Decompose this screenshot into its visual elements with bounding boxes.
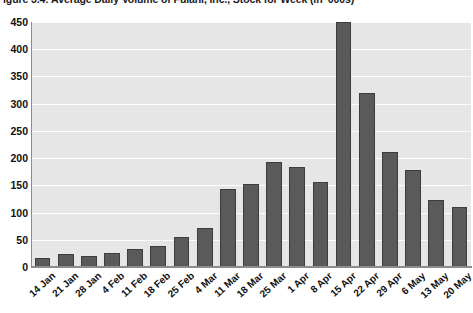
y-axis-tick-label: 350 — [10, 70, 28, 82]
bar — [336, 22, 352, 267]
chart-title: igure 3.4: Average Daily Volume of Fulan… — [3, 0, 471, 7]
y-axis-tick-label: 0 — [22, 261, 28, 273]
bar — [359, 93, 375, 267]
bar — [104, 253, 120, 267]
bar — [405, 170, 421, 267]
bar — [313, 182, 329, 267]
bar — [452, 207, 468, 267]
x-axis-tick-label: 15 Apr — [328, 270, 358, 299]
y-axis-tick-label: 50 — [16, 234, 28, 246]
y-axis-tick-label: 300 — [10, 98, 28, 110]
bar — [266, 162, 282, 267]
bar — [289, 167, 305, 267]
x-axis-tick: 1 Apr — [286, 270, 312, 295]
bar — [174, 237, 190, 267]
bar — [197, 228, 213, 267]
bar — [243, 184, 259, 267]
y-axis-tick-label: 450 — [10, 16, 28, 28]
chart-figure: igure 3.4: Average Daily Volume of Fulan… — [0, 0, 473, 313]
x-axis-tick-label: 1 Apr — [286, 270, 312, 295]
y-axis-tick-label: 150 — [10, 179, 28, 191]
y-axis-tick-label: 100 — [10, 207, 28, 219]
bar — [150, 246, 166, 267]
y-axis-tick-label: 250 — [10, 125, 28, 137]
bar — [220, 189, 236, 267]
bar — [428, 200, 444, 267]
bar — [127, 249, 143, 267]
bar-series — [31, 22, 471, 267]
x-axis-tick: 15 Apr — [328, 270, 358, 299]
x-axis: 14 Jan21 Jan28 Jan4 Feb11 Feb18 Feb25 Fe… — [31, 268, 471, 313]
y-axis-tick-label: 400 — [10, 43, 28, 55]
y-axis: 050100150200250300350400450 — [0, 22, 28, 267]
bar — [382, 152, 398, 267]
y-axis-tick-label: 200 — [10, 152, 28, 164]
